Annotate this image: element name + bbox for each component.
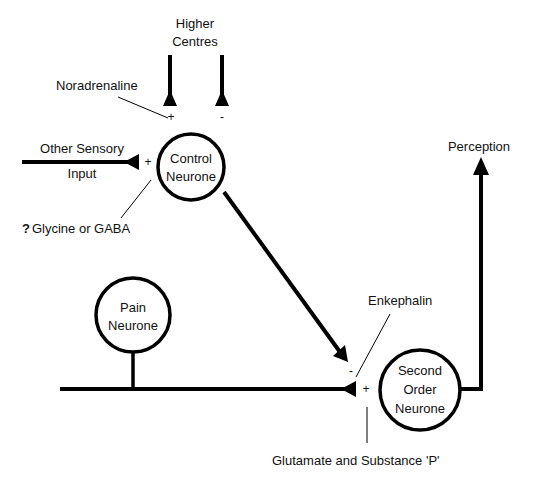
higher-plus-sign: + (167, 110, 174, 124)
control-neurone-circle (158, 134, 224, 200)
control-neurone-label-line2: Neurone (166, 169, 216, 184)
question-mark: ? (22, 221, 30, 236)
enkephalin-label: Enkephalin (368, 293, 432, 308)
other-sensory-label-line1: Other Sensory (40, 141, 124, 156)
pain-neurone-label-line1: Pain (120, 300, 146, 315)
second-order-neurone: Second Order Neurone (380, 350, 460, 430)
inhibitory-synapse-arrow-icon (215, 90, 229, 106)
second-order-label-line2: Order (403, 382, 437, 397)
noradrenaline-leader-line (118, 97, 168, 118)
pain-neurone: Pain Neurone (96, 278, 170, 389)
excitatory-synapse-arrow-icon (163, 90, 177, 106)
glycine-text: Glycine or GABA (32, 221, 131, 236)
perception-label: Perception (448, 139, 510, 154)
noradrenaline-label: Noradrenaline (56, 78, 138, 93)
glutamate-label: Glutamate and Substance 'P' (272, 453, 440, 468)
pain-synapse-arrow-icon (341, 381, 356, 397)
glycine-leader-line (121, 180, 151, 218)
second-order-label-line1: Second (398, 363, 442, 378)
sensory-synapse-arrow-icon (124, 154, 139, 170)
other-sensory-input-group: Other Sensory Input + (22, 141, 152, 181)
enkephalin-minus-sign: - (349, 364, 353, 378)
glycine-label: ?Glycine or GABA (22, 221, 131, 236)
gate-control-diagram: Higher Centres + - Noradrenaline Control… (0, 0, 533, 478)
pain-neurone-label-line2: Neurone (108, 318, 158, 333)
higher-minus-sign: - (220, 110, 224, 124)
control-inhibitory-axon (224, 192, 340, 352)
higher-centres-label-line2: Centres (172, 34, 218, 49)
control-neurone: Control Neurone (158, 134, 224, 200)
second-order-label-line3: Neurone (395, 401, 445, 416)
perception-arrow-icon (473, 157, 489, 175)
control-neurone-label-line1: Control (170, 151, 212, 166)
higher-centres-group: Higher Centres + - (163, 16, 229, 124)
glutamate-plus-sign: + (362, 382, 369, 396)
pain-neurone-circle (96, 278, 170, 352)
perception-axon (459, 170, 481, 389)
other-sensory-label-line2: Input (68, 166, 97, 181)
other-sensory-plus-sign: + (144, 155, 151, 169)
higher-centres-label-line1: Higher (176, 16, 215, 31)
